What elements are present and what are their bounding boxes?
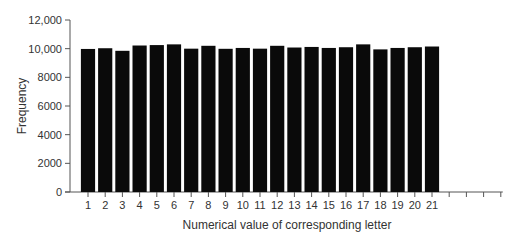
y-tick-label: 12,000 bbox=[28, 14, 62, 26]
y-tick-label: 4000 bbox=[38, 129, 62, 141]
x-tick-label: 6 bbox=[171, 199, 177, 211]
bar bbox=[425, 47, 439, 192]
bar bbox=[322, 48, 336, 192]
bars bbox=[81, 44, 439, 192]
bar bbox=[219, 49, 233, 192]
x-tick-label: 13 bbox=[288, 199, 300, 211]
x-axis-title: Numerical value of corresponding letter bbox=[183, 218, 392, 232]
y-tick-label: 0 bbox=[56, 186, 62, 198]
bar-chart: 0200040006000800010,00012,000 1234567891… bbox=[0, 0, 520, 241]
bar bbox=[81, 49, 95, 192]
bar bbox=[115, 51, 129, 192]
bar bbox=[236, 48, 250, 192]
x-tick-label: 18 bbox=[374, 199, 386, 211]
x-tick-label: 12 bbox=[271, 199, 283, 211]
x-tick-label: 9 bbox=[223, 199, 229, 211]
x-tick-label: 19 bbox=[391, 199, 403, 211]
x-tick-label: 20 bbox=[409, 199, 421, 211]
x-tick-label: 1 bbox=[85, 199, 91, 211]
bar bbox=[270, 46, 284, 192]
x-axis: 123456789101112131415161718192021 bbox=[65, 192, 503, 211]
bar bbox=[253, 49, 267, 192]
x-tick-label: 7 bbox=[188, 199, 194, 211]
bar bbox=[373, 49, 387, 192]
bar bbox=[167, 44, 181, 192]
x-tick-label: 21 bbox=[426, 199, 438, 211]
x-tick-label: 14 bbox=[305, 199, 317, 211]
bar bbox=[391, 48, 405, 192]
bar bbox=[305, 47, 319, 192]
x-tick-label: 8 bbox=[205, 199, 211, 211]
y-tick-label: 2000 bbox=[38, 157, 62, 169]
x-tick-label: 10 bbox=[237, 199, 249, 211]
bar bbox=[287, 48, 301, 192]
y-axis-title: Frequency bbox=[15, 78, 29, 135]
bar bbox=[98, 48, 112, 192]
bar bbox=[408, 47, 422, 192]
x-tick-label: 2 bbox=[102, 199, 108, 211]
bar bbox=[339, 47, 353, 192]
y-tick-label: 10,000 bbox=[28, 43, 62, 55]
x-tick-label: 11 bbox=[254, 199, 265, 211]
x-tick-label: 3 bbox=[119, 199, 125, 211]
x-tick-label: 5 bbox=[154, 199, 160, 211]
y-tick-label: 8000 bbox=[38, 71, 62, 83]
bar bbox=[184, 49, 198, 192]
x-tick-label: 15 bbox=[323, 199, 335, 211]
x-tick-label: 17 bbox=[357, 199, 369, 211]
x-tick-label: 4 bbox=[137, 199, 143, 211]
bar bbox=[356, 44, 370, 192]
x-tick-label: 16 bbox=[340, 199, 352, 211]
bar bbox=[133, 46, 147, 192]
y-axis: 0200040006000800010,00012,000 bbox=[28, 14, 70, 198]
bar bbox=[150, 45, 164, 192]
y-tick-label: 6000 bbox=[38, 100, 62, 112]
bar bbox=[201, 46, 215, 192]
